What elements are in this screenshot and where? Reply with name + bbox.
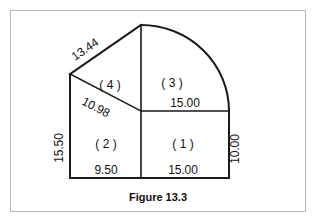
region-label-2: ( 2 ) xyxy=(95,137,116,151)
dimension-bottom-left: 9.50 xyxy=(95,163,118,177)
region-label-3: ( 3 ) xyxy=(161,76,182,90)
composite-area-diagram: ( 3 ) ( 4 ) ( 1 ) ( 2 ) 13.44 10.98 15.5… xyxy=(11,11,305,211)
dimension-inner-diagonal: 10.98 xyxy=(80,94,113,120)
dimension-top-slant: 13.44 xyxy=(69,35,102,64)
dimension-middle-horizontal: 15.00 xyxy=(170,96,200,110)
dimension-right-vertical: 10.00 xyxy=(228,134,242,164)
figure-panel: ( 3 ) ( 4 ) ( 1 ) ( 2 ) 13.44 10.98 15.5… xyxy=(10,10,306,212)
region-label-1: ( 1 ) xyxy=(172,137,193,151)
dimension-left-vertical: 15.50 xyxy=(52,133,66,163)
figure-caption: Figure 13.3 xyxy=(11,191,305,203)
region-label-4: ( 4 ) xyxy=(99,78,120,92)
dimension-bottom-right: 15.00 xyxy=(168,163,198,177)
